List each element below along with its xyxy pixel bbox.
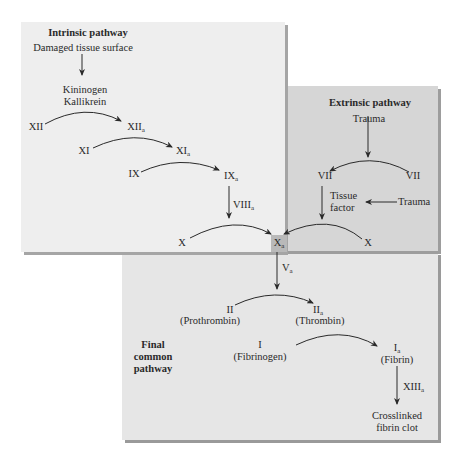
prothrombin-label: (Prothrombin) bbox=[175, 315, 245, 327]
final-title-line1: Final bbox=[128, 339, 178, 351]
arrow-i-to-ia bbox=[296, 335, 377, 346]
factor-x-extrinsic: X bbox=[360, 237, 376, 249]
factor-x-intrinsic: X bbox=[174, 237, 190, 249]
intrinsic-title: Intrinsic pathway bbox=[38, 27, 138, 39]
factor-xiia: XIIa bbox=[121, 121, 151, 133]
damaged-tissue-label: Damaged tissue surface bbox=[28, 42, 138, 54]
final-title-line3: pathway bbox=[128, 363, 178, 375]
kallikrein-label: Kallikrein bbox=[50, 96, 120, 108]
factor-viia: VII bbox=[310, 170, 340, 182]
fibrinogen-label: (Fibrinogen) bbox=[230, 351, 290, 363]
factor-ix: IX bbox=[124, 168, 144, 180]
factor-xi: XI bbox=[74, 145, 94, 157]
arrow-vii-to-viia bbox=[330, 161, 409, 172]
extrinsic-title: Extrinsic pathway bbox=[320, 97, 420, 109]
arrow-x-to-xa-left bbox=[190, 225, 271, 238]
factor-xa: Xa bbox=[271, 237, 287, 249]
tissue-factor-line1: Tissue bbox=[330, 190, 357, 202]
arrows-layer bbox=[0, 0, 461, 465]
factor-xii: XII bbox=[24, 121, 48, 133]
clot-label-line2: fibrin clot bbox=[367, 422, 427, 434]
factor-vii: VII bbox=[402, 170, 424, 182]
factor-ia: Ia bbox=[385, 342, 409, 354]
final-title-line2: common bbox=[128, 351, 178, 363]
trauma-label-2: Trauma bbox=[398, 196, 430, 208]
factor-xiiia: XIIIa bbox=[403, 381, 424, 393]
factor-ixa: IXa bbox=[218, 170, 244, 182]
clot-label-line1: Crosslinked bbox=[367, 410, 427, 422]
arrow-xii-to-xiia bbox=[45, 112, 121, 124]
arrow-xi-to-xia bbox=[93, 138, 172, 148]
factor-i: I bbox=[245, 339, 275, 351]
arrow-ix-to-ixa bbox=[141, 162, 219, 172]
kininogen-label: Kininogen bbox=[50, 84, 120, 96]
trauma-label: Trauma bbox=[344, 113, 394, 125]
tissue-factor-line2: factor bbox=[330, 202, 354, 214]
arrow-x-to-xa-right bbox=[284, 224, 362, 239]
thrombin-label: (Thrombin) bbox=[290, 315, 350, 327]
factor-va: Va bbox=[282, 262, 293, 274]
factor-viiia: VIIIa bbox=[233, 199, 254, 211]
fibrin-label: (Fibrin) bbox=[375, 354, 419, 366]
factor-xia: XIa bbox=[170, 145, 196, 157]
